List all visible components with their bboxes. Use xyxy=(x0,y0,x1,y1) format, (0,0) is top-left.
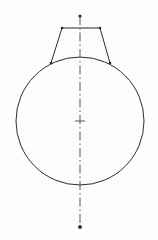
neck-bottom-right-dot xyxy=(109,62,112,65)
neck-left-wall xyxy=(51,28,62,63)
technical-drawing-svg xyxy=(0,0,158,240)
centerline-bottom-dot xyxy=(78,225,82,229)
neck-top-right-dot xyxy=(99,27,102,30)
drawing-canvas xyxy=(0,0,158,240)
neck-right-wall xyxy=(100,28,110,63)
centerline-top-dot xyxy=(78,14,81,17)
neck-top-left-dot xyxy=(61,27,64,30)
neck-bottom-left-dot xyxy=(50,62,53,65)
